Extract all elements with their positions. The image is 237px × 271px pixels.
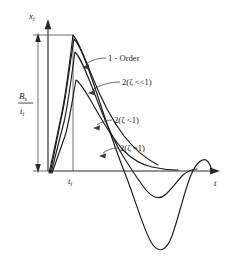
annotation-first-order: 1 - Order [108, 53, 140, 63]
figure-container: xi t ti Bs ti 1 - Order 2(ζ <<1) 2(ζ <1)… [0, 0, 237, 271]
x-axis-label: t [214, 178, 217, 188]
y-axis-arrowhead [45, 19, 52, 29]
amplitude-label-numerator: Bs [19, 91, 28, 102]
y-axis-label: xi [28, 11, 35, 22]
response-plot: xi t ti Bs ti 1 - Order 2(ζ <<1) 2(ζ <1)… [0, 0, 237, 271]
leader-arrowhead-underdamped [93, 125, 100, 130]
amplitude-arrow-up [35, 33, 41, 42]
annotation-critical: 2(ζ =1) [120, 143, 145, 153]
x-tick-label: ti [68, 176, 73, 187]
annotation-underdamped-low: 2(ζ <<1) [122, 77, 152, 87]
curve-second-order-critical [52, 80, 178, 173]
leader-arrowhead-underdamped-low [88, 90, 95, 95]
amplitude-arrow-down [35, 164, 41, 173]
leader-first-order [86, 58, 106, 64]
amplitude-label-denominator: ti [20, 106, 25, 117]
annotation-underdamped: 2(ζ <1) [114, 115, 139, 125]
leader-arrowhead-critical [99, 153, 106, 158]
